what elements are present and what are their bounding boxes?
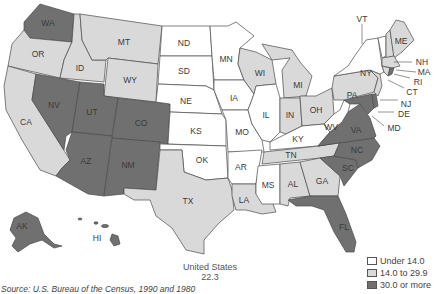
legend-label-low: Under 14.0 bbox=[380, 255, 425, 267]
label-hi: HI bbox=[93, 233, 102, 243]
legend-label-mid: 14.0 to 29.9 bbox=[380, 267, 428, 279]
label-ok: OK bbox=[196, 155, 209, 165]
label-ri: RI bbox=[414, 77, 423, 87]
label-ga: GA bbox=[316, 176, 329, 186]
label-sd: SD bbox=[178, 66, 190, 76]
state-ak bbox=[10, 212, 62, 252]
label-mt: MT bbox=[118, 37, 130, 47]
label-mo: MO bbox=[235, 127, 249, 137]
label-ak: AK bbox=[16, 221, 28, 231]
legend-label-high: 30.0 or more bbox=[380, 279, 431, 291]
label-nh: NH bbox=[416, 57, 428, 67]
label-wi: WI bbox=[255, 68, 265, 78]
us-choropleth-map: WA OR CA ID NV MT WY UT CO AZ NM ND SD N… bbox=[0, 0, 436, 294]
label-sc: SC bbox=[342, 163, 354, 173]
label-de: DE bbox=[398, 109, 410, 119]
label-ky: KY bbox=[292, 134, 304, 144]
label-ia: IA bbox=[230, 93, 238, 103]
label-la: LA bbox=[239, 195, 250, 205]
label-mn: MN bbox=[219, 54, 232, 64]
legend-item-mid: 14.0 to 29.9 bbox=[367, 267, 431, 279]
label-nm: NM bbox=[121, 160, 134, 170]
label-co: CO bbox=[135, 118, 148, 128]
us-total-value: 22.3 bbox=[160, 272, 260, 282]
label-ms: MS bbox=[262, 180, 275, 190]
legend-swatch-mid bbox=[367, 269, 377, 277]
label-ne: NE bbox=[180, 96, 192, 106]
label-or: OR bbox=[32, 49, 45, 59]
label-md: MD bbox=[387, 123, 400, 133]
label-nc: NC bbox=[351, 145, 363, 155]
label-ca: CA bbox=[20, 117, 32, 127]
label-tn: TN bbox=[285, 150, 296, 160]
label-nv: NV bbox=[48, 100, 60, 110]
legend: Under 14.0 14.0 to 29.9 30.0 or more bbox=[367, 255, 431, 291]
label-wa: WA bbox=[41, 18, 55, 28]
label-nj: NJ bbox=[401, 99, 411, 109]
legend-item-high: 30.0 or more bbox=[367, 279, 431, 291]
label-pa: PA bbox=[347, 90, 358, 100]
label-ny: NY bbox=[360, 68, 372, 78]
label-az: AZ bbox=[81, 156, 92, 166]
label-id: ID bbox=[76, 63, 85, 73]
label-va: VA bbox=[351, 125, 362, 135]
label-wy: WY bbox=[123, 75, 137, 85]
label-ar: AR bbox=[235, 162, 247, 172]
label-ct: CT bbox=[406, 87, 417, 97]
state-ny bbox=[334, 38, 384, 76]
source-note: Source: U.S. Bureau of the Census, 1990 … bbox=[1, 284, 195, 294]
label-ut: UT bbox=[86, 107, 97, 117]
legend-item-low: Under 14.0 bbox=[367, 255, 431, 267]
label-fl: FL bbox=[339, 222, 349, 232]
label-me: ME bbox=[395, 36, 408, 46]
label-al: AL bbox=[288, 179, 299, 189]
label-vt: VT bbox=[357, 14, 368, 24]
label-ma: MA bbox=[418, 67, 431, 77]
label-oh: OH bbox=[310, 105, 323, 115]
label-tx: TX bbox=[183, 196, 194, 206]
label-in: IN bbox=[286, 110, 295, 120]
label-mi: MI bbox=[293, 80, 302, 90]
legend-swatch-low bbox=[367, 257, 377, 265]
label-nd: ND bbox=[178, 38, 190, 48]
label-wv: WV bbox=[324, 122, 338, 132]
label-il: IL bbox=[262, 110, 269, 120]
us-total: United States 22.3 bbox=[160, 262, 260, 282]
legend-swatch-high bbox=[367, 281, 377, 289]
label-ks: KS bbox=[190, 126, 202, 136]
us-total-label: United States bbox=[160, 262, 260, 272]
